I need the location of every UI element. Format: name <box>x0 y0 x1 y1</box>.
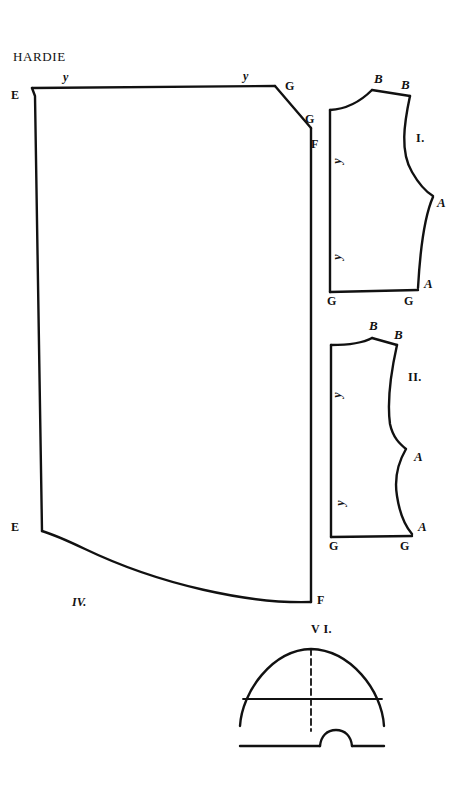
piece-label-i: I. <box>416 132 425 144</box>
piece-label-ii: II. <box>408 371 422 383</box>
vertex-label-g-i-right: G <box>404 295 413 307</box>
vertex-label-f-top: F <box>311 138 318 150</box>
grain-label-y-ii-upper: y <box>331 392 343 397</box>
page-title: HARDIE <box>13 50 66 63</box>
vertex-label-g-i-left: G <box>327 295 336 307</box>
piece-label-iv: IV. <box>72 596 86 608</box>
piece-i-hem-edge <box>330 290 418 292</box>
piece-i-armhole-curve <box>404 96 433 196</box>
vertex-label-g-ii-left: G <box>329 540 338 552</box>
vertex-label-e-bottom: E <box>11 521 19 533</box>
piece-label-vi: V I. <box>311 623 332 635</box>
piece-i-shape <box>330 90 433 292</box>
vertex-label-e-top: E <box>11 89 19 101</box>
piece-iv-shape <box>32 86 311 602</box>
piece-i-neck-curve <box>330 90 372 110</box>
grain-label-y-top-left: y <box>63 71 68 83</box>
vertex-label-f-bottom: F <box>317 594 324 606</box>
diagram-page: HARDIE IV. I. II. V I. E y y G G F E F B… <box>0 0 472 786</box>
piece-vi-shape <box>240 649 384 746</box>
vertex-label-g-upper: G <box>285 80 294 92</box>
grain-label-y-ii-lower: y <box>334 500 346 505</box>
grain-label-y-i-lower: y <box>331 254 343 259</box>
piece-vi-center-notch <box>320 730 352 746</box>
vertex-label-a-i-lower: A <box>424 277 433 290</box>
piece-iv-left-edge <box>32 88 42 531</box>
vertex-label-g-lower: G <box>305 113 314 125</box>
piece-iv-bottom-curve <box>42 531 311 602</box>
piece-ii-shape <box>331 338 412 537</box>
vertex-label-b-i-right: B <box>401 78 410 91</box>
piece-vi-dome-arc <box>240 649 384 726</box>
vertex-label-b-i-left: B <box>374 72 383 85</box>
vertex-label-g-ii-right: G <box>400 540 409 552</box>
grain-label-y-i-upper: y <box>331 158 343 163</box>
grain-label-y-top-right: y <box>243 70 248 82</box>
piece-iv-top-edge <box>32 86 275 88</box>
piece-i-side-seam <box>418 197 433 288</box>
piece-ii-hem-edge <box>331 536 412 537</box>
pattern-diagram-canvas <box>0 0 472 786</box>
vertex-label-a-i-upper: A <box>437 196 446 209</box>
vertex-label-a-ii-upper: A <box>414 450 423 463</box>
vertex-label-b-ii-right: B <box>394 328 403 341</box>
vertex-label-b-ii-left: B <box>369 319 378 332</box>
piece-ii-neck-curve <box>331 338 372 345</box>
vertex-label-a-ii-lower: A <box>418 520 427 533</box>
